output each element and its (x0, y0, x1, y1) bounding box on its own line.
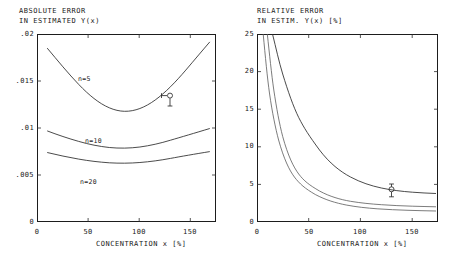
curve-rel-n5 (273, 34, 437, 194)
panel-relative-error: RELATIVE ERROR IN ESTIM. Y(x) [%] 25 20 … (227, 0, 453, 264)
curve-n20 (47, 152, 210, 164)
curve-n5 (47, 42, 210, 111)
curve-rel-n10 (267, 34, 436, 207)
curves-svg-absolute-error (0, 0, 226, 264)
design-point-marker (162, 93, 173, 106)
curve-n10 (47, 129, 210, 149)
figure-two-panel-error-plots: ABSOLUTE ERROR IN ESTIMATED Y(x) .02 .01… (0, 0, 453, 264)
curve-rel-n20 (263, 34, 436, 211)
panel-absolute-error: ABSOLUTE ERROR IN ESTIMATED Y(x) .02 .01… (0, 0, 226, 264)
y-axis-ticks (257, 72, 438, 185)
curves-svg-relative-error (227, 0, 453, 264)
x-axis-ticks (88, 34, 190, 222)
y-axis-ticks (37, 81, 216, 175)
